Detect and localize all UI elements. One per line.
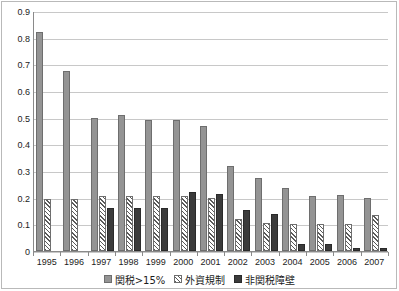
- x-axis-tick: [306, 252, 307, 256]
- x-axis-tick: [170, 252, 171, 256]
- legend-entry: 外資規制: [174, 272, 225, 287]
- bar: [99, 196, 106, 251]
- legend-label: 関税>15%: [115, 272, 166, 287]
- bar-group: [334, 12, 361, 251]
- x-axis-tick: [60, 252, 61, 256]
- x-axis-tick-label: 2003: [251, 257, 278, 268]
- bar: [317, 224, 324, 251]
- bar: [372, 215, 379, 251]
- x-axis-tick-label: 2000: [170, 257, 197, 268]
- bar: [263, 223, 270, 251]
- bar: [380, 248, 387, 251]
- bar-group: [116, 12, 143, 251]
- bar-group: [89, 12, 116, 251]
- bar-group: [307, 12, 334, 251]
- x-axis-tick-label: 1998: [115, 257, 142, 268]
- bar: [364, 198, 371, 251]
- bar: [235, 219, 242, 251]
- bar-group: [198, 12, 225, 251]
- bar: [118, 115, 125, 251]
- x-axis-tick-label: 1999: [142, 257, 169, 268]
- x-axis-tick: [388, 252, 389, 256]
- bar: [298, 244, 305, 251]
- x-axis-tick: [333, 252, 334, 256]
- bar: [181, 196, 188, 251]
- x-axis: 1995199619971998199920002001200220032004…: [33, 252, 388, 270]
- legend-entry: 非関税障壁: [234, 272, 295, 287]
- x-axis-tick: [115, 252, 116, 256]
- bar: [208, 198, 215, 251]
- x-axis-tick: [197, 252, 198, 256]
- x-axis-tick: [279, 252, 280, 256]
- x-axis-tick-label: 2005: [306, 257, 333, 268]
- bar-group: [143, 12, 170, 251]
- plot-area: [33, 12, 388, 252]
- bar-group: [280, 12, 307, 251]
- y-axis-tick-label: 0.4: [2, 141, 30, 150]
- bar: [337, 195, 344, 251]
- x-axis-tick: [88, 252, 89, 256]
- x-axis-tick-label: 2006: [333, 257, 360, 268]
- bar: [189, 192, 196, 251]
- bar: [227, 166, 234, 251]
- y-axis-tick-label: 0.6: [2, 88, 30, 97]
- bar-group: [225, 12, 252, 251]
- x-axis-tick-label: 1997: [88, 257, 115, 268]
- legend-label: 非関税障壁: [245, 272, 295, 287]
- legend-label: 外資規制: [185, 272, 225, 287]
- y-axis-tick-label: 0.8: [2, 35, 30, 44]
- bar: [282, 188, 289, 251]
- bar: [63, 71, 70, 251]
- x-axis-tick-label: 2007: [361, 257, 388, 268]
- y-axis-tick-label: 0.2: [2, 195, 30, 204]
- bar-chart: 00.10.20.30.40.50.60.70.80.9 19951996199…: [0, 0, 399, 291]
- x-axis-tick: [142, 252, 143, 256]
- bar: [36, 32, 43, 251]
- y-axis: 00.10.20.30.40.50.60.70.80.9: [0, 12, 30, 252]
- x-axis-tick: [224, 252, 225, 256]
- bar: [145, 120, 152, 251]
- bar-group: [171, 12, 198, 251]
- x-axis-tick: [33, 252, 34, 256]
- x-axis-tick-label: 2002: [224, 257, 251, 268]
- bar: [134, 208, 141, 251]
- bar-group: [61, 12, 88, 251]
- bar: [345, 224, 352, 251]
- y-axis-tick-label: 0.3: [2, 168, 30, 177]
- legend-entry: 関税>15%: [104, 272, 166, 287]
- bar: [243, 210, 250, 251]
- bar: [44, 199, 51, 251]
- bar: [325, 244, 332, 251]
- y-axis-tick-label: 0.5: [2, 115, 30, 124]
- x-axis-tick-label: 1995: [33, 257, 60, 268]
- y-axis-tick-label: 0.1: [2, 221, 30, 230]
- x-axis-tick-label: 1996: [60, 257, 87, 268]
- bar: [255, 178, 262, 251]
- bar-group: [252, 12, 279, 251]
- bar-group: [362, 12, 389, 251]
- x-axis-tick: [361, 252, 362, 256]
- y-axis-tick-label: 0.9: [2, 8, 30, 17]
- bar: [271, 214, 278, 251]
- x-axis-tick-label: 2004: [279, 257, 306, 268]
- bar: [161, 208, 168, 251]
- bar: [126, 196, 133, 251]
- bar: [107, 208, 114, 251]
- bar: [71, 199, 78, 251]
- bar: [353, 248, 360, 251]
- bar-group: [34, 12, 61, 251]
- x-axis-tick: [251, 252, 252, 256]
- legend-swatch-icon: [234, 275, 242, 283]
- bar: [91, 118, 98, 251]
- x-axis-tick-label: 2001: [197, 257, 224, 268]
- chart-legend: 関税>15%外資規制非関税障壁: [0, 271, 399, 287]
- bar: [290, 224, 297, 251]
- bar: [200, 126, 207, 251]
- y-axis-tick-label: 0: [2, 248, 30, 257]
- bar: [173, 120, 180, 251]
- bar: [216, 194, 223, 251]
- legend-swatch-icon: [174, 275, 182, 283]
- y-axis-tick-label: 0.7: [2, 61, 30, 70]
- bar: [309, 196, 316, 251]
- legend-swatch-icon: [104, 275, 112, 283]
